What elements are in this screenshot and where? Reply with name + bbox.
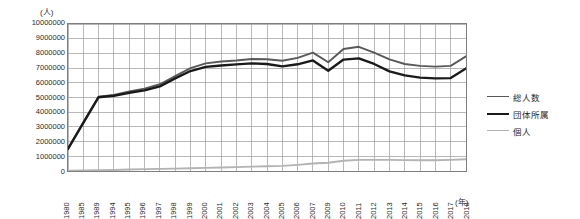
- x-axis-tick-label: 1985: [77, 179, 86, 219]
- legend-item-label: 個人: [513, 125, 531, 137]
- legend-color-swatch: [487, 130, 509, 131]
- legend-item-label: 団体所属: [513, 108, 549, 120]
- legend-color-swatch: [487, 96, 509, 97]
- legend-item[interactable]: 個人: [487, 122, 579, 139]
- x-axis-tick-label: 2006: [292, 179, 301, 219]
- x-axis-tick-label: 2015: [415, 179, 424, 219]
- x-axis-tick-label: 2013: [385, 179, 394, 219]
- y-axis-tick-label: 2000000: [5, 138, 65, 146]
- x-axis-tick-label: 1980: [62, 179, 71, 219]
- x-axis-tick-label: 2010: [338, 179, 347, 219]
- y-axis-tick-label: 1000000: [5, 153, 65, 161]
- x-axis-tick-label: 2004: [262, 179, 271, 219]
- x-axis-tick-label: 1995: [123, 179, 132, 219]
- y-axis-tick-label: 8000000: [5, 49, 65, 57]
- y-axis-tick-label: 9000000: [5, 34, 65, 42]
- y-axis-tick-label: 4000000: [5, 108, 65, 116]
- x-axis-tick-label: 2000: [200, 179, 209, 219]
- legend-item[interactable]: 総人数: [487, 88, 579, 105]
- x-axis-tick-label: 1999: [185, 179, 194, 219]
- x-axis-tick-label: 2018: [462, 179, 471, 219]
- x-axis-tick-label: 2014: [400, 179, 409, 219]
- plot-area: [67, 23, 467, 172]
- legend-item-label: 総人数: [513, 91, 540, 103]
- legend-color-swatch: [487, 113, 509, 115]
- x-axis-tick-label: 1989: [92, 179, 101, 219]
- y-axis-tick-label: 0: [5, 168, 65, 176]
- y-axis-tick-labels: 0100000020000003000000400000050000006000…: [2, 0, 65, 219]
- legend-item[interactable]: 団体所属: [487, 105, 579, 122]
- y-axis-tick-label: 7000000: [5, 64, 65, 72]
- y-axis-tick-label: 6000000: [5, 79, 65, 87]
- x-axis-tick-label: 2009: [323, 179, 332, 219]
- x-axis-tick-label: 2017: [446, 179, 455, 219]
- y-axis-tick-label: 5000000: [5, 94, 65, 102]
- x-axis-tick-label: 1996: [138, 179, 147, 219]
- x-axis-tick-label: 2001: [215, 179, 224, 219]
- chart-legend: 総人数団体所属個人: [487, 88, 579, 139]
- x-axis-tick-label: 1997: [154, 179, 163, 219]
- x-axis-tick-label: 2005: [277, 179, 286, 219]
- x-axis-tick-label: 2011: [354, 179, 363, 219]
- y-axis-tick-label: 3000000: [5, 123, 65, 131]
- x-axis-tick-label: 1998: [169, 179, 178, 219]
- x-axis-tick-labels: 1980198519891994199519961997199819992000…: [67, 174, 467, 219]
- x-axis-tick-label: 2002: [231, 179, 240, 219]
- x-axis-tick-label: 2003: [246, 179, 255, 219]
- x-axis-tick-label: 2016: [431, 179, 440, 219]
- x-axis-tick-label: 1994: [108, 179, 117, 219]
- x-axis-tick-label: 2007: [308, 179, 317, 219]
- chart-figure: (人) (年) 01000000200000030000004000000500…: [0, 0, 580, 219]
- y-axis-tick-label: 10000000: [5, 19, 65, 27]
- x-axis-tick-label: 2012: [369, 179, 378, 219]
- grid-lines: [68, 24, 466, 171]
- plot-svg: [68, 24, 466, 171]
